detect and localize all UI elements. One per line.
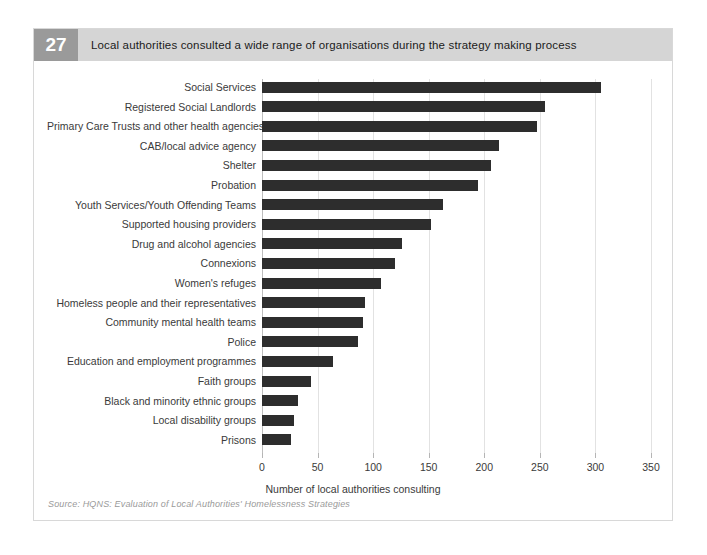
category-label: Drug and alcohol agencies: [47, 236, 262, 252]
x-axis-tick-label: 350: [631, 461, 671, 473]
x-axis-tick: [262, 453, 263, 458]
gridline: [651, 79, 652, 453]
bar: [262, 199, 443, 210]
bar: [262, 140, 499, 151]
bar: [262, 82, 601, 93]
x-axis-tick-label: 200: [464, 461, 504, 473]
x-axis-tick-label: 250: [520, 461, 560, 473]
bar: [262, 258, 395, 269]
bar: [262, 415, 294, 426]
category-label: Faith groups: [47, 373, 262, 389]
figure-number-badge: 27: [34, 29, 78, 61]
bar-chart: Social ServicesRegistered Social Landlor…: [34, 61, 672, 489]
bar: [262, 121, 537, 132]
category-label: Women's refuges: [47, 275, 262, 291]
bar: [262, 336, 358, 347]
figure-headline: Local authorities consulted a wide range…: [78, 29, 672, 61]
x-axis-tick: [373, 453, 374, 458]
category-label: Social Services: [47, 79, 262, 95]
category-label: Probation: [47, 177, 262, 193]
x-axis-tick-label: 100: [353, 461, 393, 473]
category-label: Community mental health teams: [47, 314, 262, 330]
x-axis-tick: [651, 453, 652, 458]
figure-header: 27 Local authorities consulted a wide ra…: [34, 29, 672, 61]
category-label: Primary Care Trusts and other health age…: [47, 118, 262, 134]
bar: [262, 317, 363, 328]
chart-plot-area: Social ServicesRegistered Social Landlor…: [34, 61, 672, 489]
gridline: [540, 79, 541, 453]
bar: [262, 238, 402, 249]
bar: [262, 297, 365, 308]
x-axis-tick-label: 150: [409, 461, 449, 473]
bar: [262, 219, 431, 230]
category-label: Prisons: [47, 432, 262, 448]
bar: [262, 395, 298, 406]
category-label: Shelter: [47, 157, 262, 173]
figure-panel: 27 Local authorities consulted a wide ra…: [33, 28, 673, 521]
category-label: Police: [47, 334, 262, 350]
category-label: Local disability groups: [47, 412, 262, 428]
category-label: Homeless people and their representative…: [47, 295, 262, 311]
category-label: Connexions: [47, 255, 262, 271]
bar: [262, 101, 545, 112]
category-label: Education and employment programmes: [47, 353, 262, 369]
category-label: Registered Social Landlords: [47, 99, 262, 115]
source-note: Source: HQNS: Evaluation of Local Author…: [34, 499, 350, 509]
bar: [262, 434, 291, 445]
x-axis-line: [262, 453, 652, 454]
x-axis-tick: [429, 453, 430, 458]
category-label: Black and minority ethnic groups: [47, 393, 262, 409]
x-axis-tick: [595, 453, 596, 458]
x-axis-tick: [540, 453, 541, 458]
category-label: Youth Services/Youth Offending Teams: [47, 197, 262, 213]
bar: [262, 278, 381, 289]
gridline: [484, 79, 485, 453]
figure-footer: Source: HQNS: Evaluation of Local Author…: [34, 488, 672, 520]
bar: [262, 180, 478, 191]
x-axis-tick-label: 300: [575, 461, 615, 473]
x-axis-tick-label: 0: [242, 461, 282, 473]
bar: [262, 376, 311, 387]
x-axis-tick-label: 50: [298, 461, 338, 473]
gridline: [595, 79, 596, 453]
x-axis-tick: [484, 453, 485, 458]
category-label: Supported housing providers: [47, 216, 262, 232]
bar: [262, 160, 491, 171]
category-label: CAB/local advice agency: [47, 138, 262, 154]
x-axis-tick: [318, 453, 319, 458]
gridline: [429, 79, 430, 453]
bar: [262, 356, 333, 367]
